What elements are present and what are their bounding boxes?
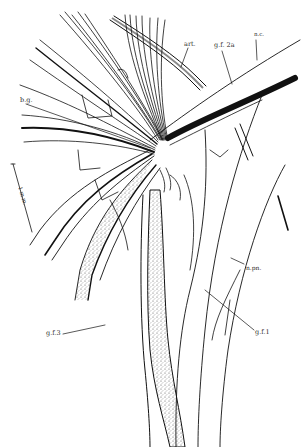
nerve-drawing xyxy=(0,0,303,447)
label-bg: b.g. xyxy=(20,97,32,104)
label-nc: n.c. xyxy=(254,32,264,38)
label-gf1: g.f.1 xyxy=(255,329,270,336)
nerve-gf2a xyxy=(168,78,295,138)
nerve-gf3 xyxy=(141,190,185,447)
label-gf2a: g.f. 2a xyxy=(214,42,235,49)
label-npn: n.pn. xyxy=(246,265,261,271)
label-gf3: g.f.3 xyxy=(46,330,61,337)
fibre-fan xyxy=(20,12,168,154)
commissures xyxy=(78,69,181,250)
label-artery: art. xyxy=(184,41,196,48)
right-outlines xyxy=(170,95,288,447)
anatomical-figure: art. g.f. 2a n.c. b.g. 1 m.m. n.pn. g.f.… xyxy=(0,0,303,447)
